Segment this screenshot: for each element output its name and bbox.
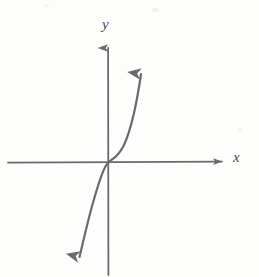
graph-canvas <box>0 0 259 277</box>
y-axis-label: y <box>102 17 109 32</box>
graph-figure: y x <box>0 0 259 277</box>
cubic-curve-group <box>80 74 142 257</box>
x-axis-label: x <box>233 150 240 165</box>
axes-group <box>8 48 222 275</box>
cubic-curve <box>80 74 142 257</box>
x-axis-line <box>8 162 222 163</box>
